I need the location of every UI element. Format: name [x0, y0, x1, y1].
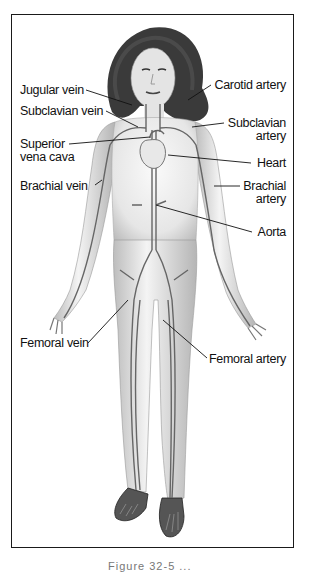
figure-caption: Figure 32-5 ...: [108, 560, 191, 572]
torso: [112, 118, 198, 248]
label-jugular-vein: Jugular vein: [20, 84, 84, 97]
label-femoral-vein: Femoral vein: [20, 337, 89, 350]
label-brachial-vein: Brachial vein: [20, 180, 88, 193]
label-subclavian-vein: Subclavian vein: [20, 105, 103, 118]
label-carotid-artery: Carotid artery: [214, 79, 286, 92]
label-superior-vena-cava-line2: vena cava: [20, 151, 74, 164]
label-subclavian-artery-line2: artery: [256, 130, 286, 143]
label-femoral-artery: Femoral artery: [209, 353, 286, 366]
label-heart: Heart: [257, 157, 286, 170]
label-brachial-artery-line2: artery: [256, 193, 286, 206]
label-aorta: Aorta: [258, 226, 286, 239]
legs: [113, 240, 196, 500]
